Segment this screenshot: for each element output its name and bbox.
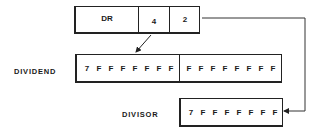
hex-digit: F [233,108,245,117]
divisor-register: 7 F F F F F F F [179,98,283,127]
hex-digit: F [255,64,267,73]
hex-digit: 7 [81,64,93,73]
dr-field-4: 4 [139,7,169,32]
hex-digit: F [269,108,281,117]
dividend-high-word: 7 F F F F F F F [81,55,177,81]
hex-digit: 7 [185,108,197,117]
hex-digit: F [219,64,231,73]
hex-digit: F [105,64,117,73]
hex-digit: F [141,64,153,73]
hex-digit: F [243,64,255,73]
hex-digit: F [245,108,257,117]
hex-digit: F [93,64,105,73]
hex-digit: F [207,64,219,73]
word-divider [179,55,180,81]
dr-name-cell: DR [76,7,138,32]
hex-digit: F [231,64,243,73]
hex-digit: F [183,64,195,73]
dividend-low-word: F F F F F F F F [183,55,279,81]
divisor-label: DIVISOR [122,110,158,119]
hex-digit: F [209,108,221,117]
hex-digit: F [195,64,207,73]
hex-digit: F [257,108,269,117]
hex-digit: F [117,64,129,73]
dividend-register: 7 F F F F F F F F F F F F F F F [75,54,282,83]
hex-digit: F [153,64,165,73]
dr-field-2: 2 [170,7,200,32]
hex-digit: F [129,64,141,73]
hex-digit: F [267,64,279,73]
hex-digit: F [197,108,209,117]
hex-digit: F [165,64,177,73]
divisor-word: 7 F F F F F F F [185,99,281,125]
dr-register: DR 4 2 [74,6,200,34]
dividend-label: DIVIDEND [14,67,56,76]
arrow-field4-to-dividend [136,35,151,52]
hex-digit: F [221,108,233,117]
